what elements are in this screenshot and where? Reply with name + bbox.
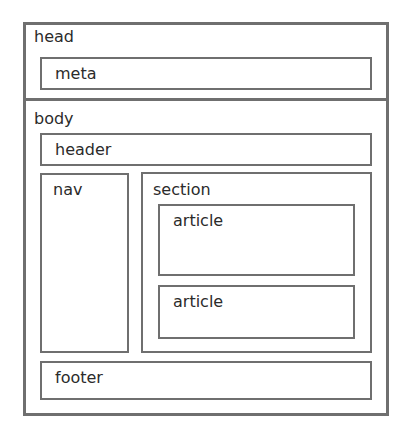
- header-label: header: [55, 141, 111, 159]
- body-label: body: [34, 110, 74, 128]
- article-box-2: article: [158, 285, 355, 339]
- article-label-1: article: [173, 212, 223, 230]
- meta-label: meta: [55, 65, 97, 83]
- footer-box: footer: [40, 361, 372, 400]
- head-body-divider: [23, 98, 388, 101]
- meta-box: meta: [40, 57, 372, 90]
- header-box: header: [40, 133, 372, 166]
- article-box-1: article: [158, 204, 355, 276]
- nav-label: nav: [53, 181, 82, 199]
- article-label-2: article: [173, 293, 223, 311]
- section-box: section article article: [141, 172, 372, 353]
- footer-label: footer: [55, 369, 103, 387]
- nav-box: nav: [40, 173, 129, 353]
- section-label: section: [153, 181, 211, 199]
- head-label: head: [34, 28, 74, 46]
